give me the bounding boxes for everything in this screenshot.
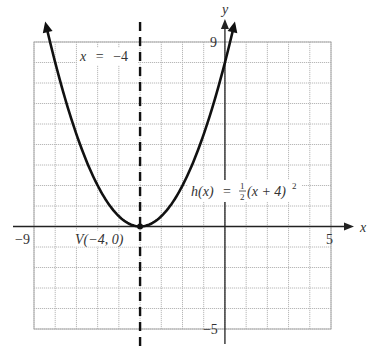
y-tick-label-min: −5 <box>203 322 218 337</box>
parabola-graph: x y −9 5 9 −5 x = −4 V(−4, 0) h(x) = 1 2… <box>0 0 376 351</box>
x-tick-label-max: 5 <box>326 232 333 247</box>
function-body: (x + 4) <box>247 184 286 200</box>
function-equals: = <box>223 184 231 199</box>
vertex-label: V(−4, 0) <box>75 232 124 248</box>
x-axis-arrow-icon <box>344 223 354 231</box>
y-tick-label-max: 9 <box>210 35 217 50</box>
aos-label-eq: = <box>96 49 104 64</box>
function-label: h(x) = 1 2 (x + 4) 2 <box>191 181 297 202</box>
vertex-point <box>137 224 143 230</box>
x-tick-label-min: −9 <box>15 232 30 247</box>
function-coef-denominator: 2 <box>240 192 245 202</box>
aos-label-val: −4 <box>113 49 128 64</box>
y-axis-arrow-icon <box>221 19 229 29</box>
x-axis-label: x <box>359 220 367 235</box>
axis-of-symmetry-label: x = −4 <box>79 49 128 64</box>
curve-arrow-left-icon <box>43 21 53 33</box>
curve-arrow-right-icon <box>228 21 238 33</box>
function-coef-numerator: 1 <box>240 181 245 191</box>
function-name: h(x) <box>191 184 214 200</box>
aos-label-var: x <box>79 49 87 64</box>
function-exponent: 2 <box>292 181 297 191</box>
y-axis-label: y <box>220 2 229 17</box>
